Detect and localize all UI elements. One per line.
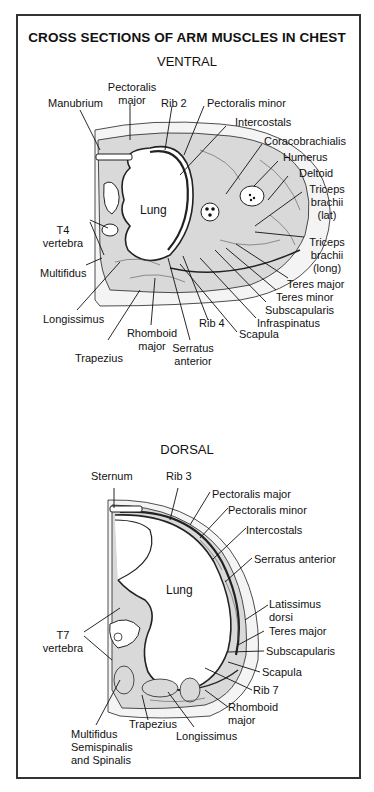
label-teres-major: Teres major bbox=[287, 278, 344, 291]
dorsal-heading: DORSAL bbox=[0, 442, 374, 457]
label-scapula: Scapula bbox=[262, 666, 302, 679]
label-line: Triceps bbox=[302, 183, 352, 196]
label-line: brachii bbox=[302, 249, 352, 262]
label-triceps-brachii-lat: Triceps brachii (lat) bbox=[302, 183, 352, 222]
label-line: major bbox=[228, 714, 278, 727]
label-latissimus-dorsi: Latissimus dorsi bbox=[269, 598, 321, 624]
label-line: T4 bbox=[38, 224, 88, 237]
label-pectoralis-minor: Pectoralis minor bbox=[228, 504, 307, 517]
label-subscapularis: Subscapularis bbox=[266, 645, 335, 658]
label-line: Rhomboid bbox=[124, 327, 180, 340]
label-line: major bbox=[124, 340, 180, 353]
label-line: vertebra bbox=[38, 642, 88, 655]
label-serratus-anterior: Serratus anterior bbox=[254, 553, 336, 566]
label-rib-2: Rib 2 bbox=[161, 97, 187, 110]
label-line: Pectoralis bbox=[107, 81, 157, 94]
label-intercostals: Intercostals bbox=[246, 524, 302, 537]
label-teres-minor: Teres minor bbox=[276, 291, 333, 304]
label-pectoralis-major: Pectoralis major bbox=[212, 488, 291, 501]
label-line: Semispinalis bbox=[71, 741, 133, 754]
label-trapezius: Trapezius bbox=[129, 718, 177, 731]
label-line: Multifidus bbox=[71, 728, 133, 741]
label-line: anterior bbox=[168, 355, 218, 368]
label-lung-ventral: Lung bbox=[140, 204, 167, 217]
label-longissimus: Longissimus bbox=[176, 730, 237, 743]
label-subscapularis: Subscapularis bbox=[265, 304, 334, 317]
label-triceps-brachii-long: Triceps brachii (long) bbox=[302, 236, 352, 275]
label-pectoralis-minor: Pectoralis minor bbox=[207, 97, 286, 110]
label-line: Latissimus bbox=[269, 598, 321, 611]
label-line: brachii bbox=[302, 196, 352, 209]
label-deltoid: Deltoid bbox=[299, 167, 333, 180]
label-t4-vertebra: T4 vertebra bbox=[38, 224, 88, 250]
label-rib-7: Rib 7 bbox=[253, 684, 279, 697]
label-longissimus: Longissimus bbox=[43, 313, 104, 326]
label-coracobrachialis: Coracobrachialis bbox=[264, 135, 346, 148]
label-line: major bbox=[107, 94, 157, 107]
label-intercostals: Intercostals bbox=[235, 116, 291, 129]
label-line: and Spinalis bbox=[71, 754, 133, 767]
label-line: Triceps bbox=[302, 236, 352, 249]
label-pectoralis-major: Pectoralis major bbox=[107, 81, 157, 107]
label-rhomboid-major: Rhomboid major bbox=[228, 701, 278, 727]
label-multifidus: Multifidus bbox=[40, 267, 86, 280]
label-line: dorsi bbox=[269, 611, 321, 624]
label-scapula: Scapula bbox=[239, 328, 279, 341]
label-line: (long) bbox=[302, 262, 352, 275]
label-line: (lat) bbox=[302, 209, 352, 222]
label-manubrium: Manubrium bbox=[48, 97, 103, 110]
label-teres-major: Teres major bbox=[269, 625, 326, 638]
label-sternum: Sternum bbox=[91, 470, 133, 483]
label-line: T7 bbox=[38, 629, 88, 642]
ventral-cross-section-illustration bbox=[0, 0, 374, 792]
label-trapezius: Trapezius bbox=[75, 352, 123, 365]
label-rib-4: Rib 4 bbox=[199, 317, 225, 330]
label-rhomboid-major: Rhomboid major bbox=[124, 327, 180, 353]
label-rib-3: Rib 3 bbox=[166, 470, 192, 483]
label-multifidus-semispinalis-spinalis: Multifidus Semispinalis and Spinalis bbox=[71, 728, 133, 767]
label-t7-vertebra: T7 vertebra bbox=[38, 629, 88, 655]
label-humerus: Humerus bbox=[283, 151, 328, 164]
label-lung-dorsal: Lung bbox=[166, 584, 193, 597]
label-line: Rhomboid bbox=[228, 701, 278, 714]
label-line: vertebra bbox=[38, 237, 88, 250]
